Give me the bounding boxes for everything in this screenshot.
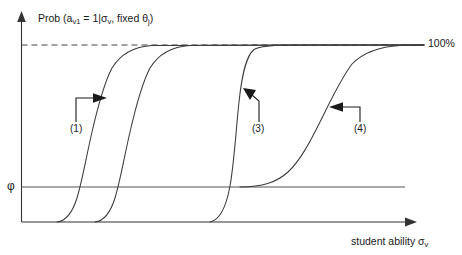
- curve-3-pointer: [243, 88, 259, 122]
- item-characteristic-curve-figure: Prob (av1 = 1|σv, fixed θj) student abil…: [0, 0, 462, 255]
- x-axis-label: student ability σv: [351, 236, 428, 249]
- y-axis-label-suffix: ): [150, 12, 154, 24]
- icc-curve-1: [57, 45, 424, 222]
- curve-1-pointer: [76, 93, 107, 122]
- phi-axis-label: φ: [7, 180, 15, 192]
- y-axis-label-mid: = 1|σ: [80, 12, 107, 24]
- x-axis-label-sub-v: v: [425, 240, 429, 249]
- icc-curve-4: [240, 45, 424, 187]
- x-axis-label-prefix: student ability σ: [351, 235, 425, 247]
- curve-label-3: (3): [252, 124, 264, 134]
- curve-4-pointer: [329, 102, 360, 122]
- curve-label-4: (4): [354, 124, 366, 134]
- y-axis: [17, 11, 26, 222]
- y-axis-label: Prob (av1 = 1|σv, fixed θj): [38, 13, 153, 26]
- curve-label-1: (1): [70, 124, 82, 134]
- upper-asymptote-label: 100%: [428, 38, 455, 49]
- y-axis-label-mid2: , fixed θ: [111, 12, 148, 24]
- y-axis-label-prefix: Prob (a: [38, 12, 72, 24]
- icc-curve-3: [210, 45, 424, 222]
- x-axis: [22, 218, 418, 227]
